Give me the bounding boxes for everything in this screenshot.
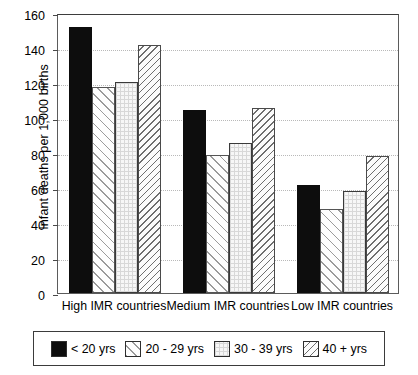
y-axis-tick-label: 20 [31,254,45,268]
legend-swatch-icon [214,341,230,357]
y-axis-tick: 120 [53,85,58,86]
y-axis-tick-label: 0 [38,289,45,303]
x-axis-label-1: Medium IMR countries [166,299,289,313]
y-axis-tick: 40 [53,225,58,226]
y-axis-tick-label: 120 [24,79,45,93]
plot-inner [58,15,398,293]
y-axis-tick: 20 [53,260,58,261]
gridline [58,50,398,51]
bar-chart: Infant deaths per 1,000 births 020406080… [0,0,418,375]
y-axis-tick: 80 [53,155,58,156]
legend-label: 40 + yrs [323,342,367,356]
bar-2-1 [229,143,252,293]
legend: < 20 yrs20 - 29 yrs30 - 39 yrs40 + yrs [33,331,385,366]
legend-label: 20 - 29 yrs [145,342,204,356]
legend-swatch-icon [125,341,141,357]
bar-2-0 [115,82,138,293]
y-axis-tick: 140 [53,50,58,51]
y-axis-tick: 100 [53,120,58,121]
y-axis-tick-label: 100 [24,114,45,128]
bar-3-2 [366,156,389,293]
x-axis-label-2: Low IMR countries [291,299,393,313]
legend-swatch-icon [303,341,319,357]
bar-3-1 [252,108,275,293]
y-axis-tick-label: 140 [24,44,45,58]
y-axis-tick-label: 160 [24,9,45,23]
legend-swatch-icon [51,341,67,357]
bar-1-1 [206,155,229,293]
bar-0-2 [297,185,320,294]
bar-1-0 [92,87,115,294]
y-axis-tick-label: 60 [31,184,45,198]
plot-area: 020406080100120140160 [57,14,399,294]
y-axis-tick: 160 [53,15,58,16]
legend-label: 30 - 39 yrs [234,342,293,356]
bar-1-2 [320,209,343,293]
bar-0-0 [69,27,92,293]
bar-2-2 [343,191,366,293]
legend-label: < 20 yrs [71,342,115,356]
y-axis-tick-label: 80 [31,149,45,163]
bar-3-0 [138,45,161,294]
legend-item-0[interactable]: < 20 yrs [51,341,115,357]
y-axis-tick: 60 [53,190,58,191]
bar-0-1 [183,110,206,293]
y-axis-tick: 0 [53,295,58,296]
legend-item-3[interactable]: 40 + yrs [303,341,367,357]
y-axis-tick-label: 40 [31,219,45,233]
legend-item-1[interactable]: 20 - 29 yrs [125,341,204,357]
x-axis-label-0: High IMR countries [62,299,167,313]
legend-item-2[interactable]: 30 - 39 yrs [214,341,293,357]
